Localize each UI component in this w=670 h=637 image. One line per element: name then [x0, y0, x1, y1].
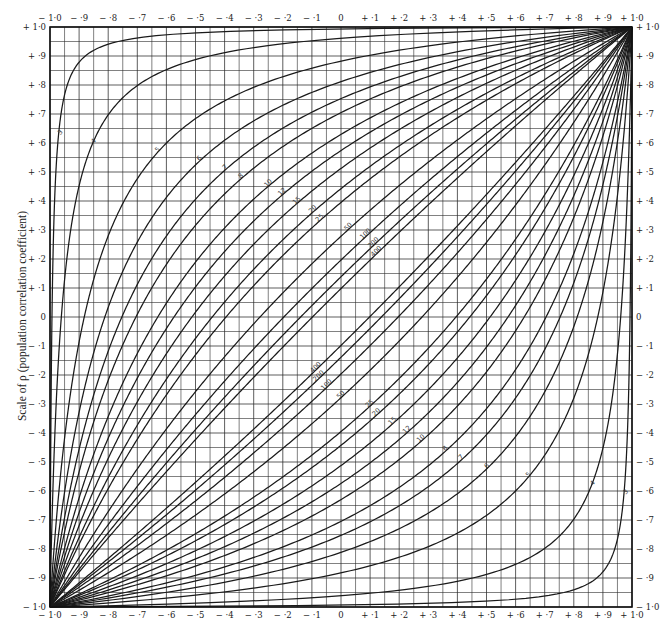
- y-tick-label-right: + ·8: [636, 80, 654, 90]
- y-tick-label-left: − ·2: [28, 370, 46, 380]
- y-tick-label-left: − ·7: [28, 515, 46, 525]
- y-tick-label-left: − ·3: [28, 399, 46, 409]
- x-tick-label: + ·2: [390, 13, 408, 23]
- x-tick-label: + ·9: [594, 610, 612, 620]
- x-tick-label: − ·8: [99, 610, 117, 620]
- x-tick-label: + ·2: [390, 610, 408, 620]
- curve-label: 20: [307, 203, 319, 215]
- x-tick-label: − ·5: [187, 610, 205, 620]
- x-tick-label: + ·9: [594, 13, 612, 23]
- correlation-confidence-chart: 3344556677881010121215152020252550501001…: [0, 0, 670, 637]
- x-tick-label: + ·3: [419, 13, 437, 23]
- x-tick-label: + ·7: [536, 610, 554, 620]
- x-tick-label: + ·3: [419, 610, 437, 620]
- x-tick-label: + ·8: [565, 13, 583, 23]
- curve-label: 12: [276, 186, 288, 198]
- curve-label: 50: [342, 221, 354, 233]
- y-tick-label-right: + ·1: [636, 283, 654, 293]
- y-tick-label-left: + ·1: [28, 283, 46, 293]
- y-tick-label-left: − ·4: [28, 428, 46, 438]
- curve-label: 50: [335, 389, 347, 401]
- curve-label: 3: [56, 128, 65, 137]
- y-tick-label-right: 0: [636, 312, 641, 322]
- x-tick-label: + ·4: [448, 610, 466, 620]
- x-tick-label: − ·9: [70, 610, 88, 620]
- x-tick-label: 0: [338, 610, 343, 620]
- x-axis-bottom-ticks: − 1·0− ·9− ·8− ·7− ·6− ·5− ·4− ·3− ·2− ·…: [38, 610, 643, 620]
- y-tick-label-left: + ·2: [28, 254, 46, 264]
- y-axis-right-ticks: + 1·0+ ·9+ ·8+ ·7+ ·6+ ·5+ ·4+ ·3+ ·2+ ·…: [636, 22, 659, 612]
- y-tick-label-left: + ·5: [28, 167, 46, 177]
- x-tick-label: − ·8: [99, 13, 117, 23]
- x-tick-label: − ·4: [216, 610, 234, 620]
- x-tick-label: + ·6: [507, 610, 525, 620]
- y-tick-label-right: + 1·0: [636, 22, 659, 32]
- x-tick-label: + ·1: [361, 610, 379, 620]
- x-tick-label: − ·2: [274, 13, 292, 23]
- curve-label: 10: [262, 177, 274, 189]
- x-tick-label: − ·1: [303, 13, 321, 23]
- y-tick-label-left: + 1·0: [23, 22, 46, 32]
- x-tick-label: − ·6: [157, 13, 175, 23]
- curve-label: 15: [387, 415, 399, 427]
- y-tick-label-right: − ·4: [636, 428, 654, 438]
- y-tick-label-right: − ·9: [636, 573, 654, 583]
- curve-label: 25: [314, 212, 326, 224]
- curve-labels: 3344556677881010121215152020252550501001…: [56, 128, 630, 496]
- y-tick-label-left: − 1·0: [23, 602, 46, 612]
- y-tick-label-left: + ·9: [28, 51, 46, 61]
- x-tick-label: + ·6: [507, 13, 525, 23]
- y-tick-label-left: − ·9: [28, 573, 46, 583]
- curve-label: 3: [621, 488, 630, 497]
- x-tick-label: − ·3: [245, 610, 263, 620]
- x-tick-label: − ·4: [216, 13, 234, 23]
- y-tick-label-right: − ·7: [636, 515, 654, 525]
- y-tick-label-right: + ·3: [636, 225, 654, 235]
- x-tick-label: − ·3: [245, 13, 263, 23]
- x-tick-label: − ·2: [274, 610, 292, 620]
- y-tick-label-right: + ·7: [636, 109, 654, 119]
- curve-label: 10: [415, 433, 427, 445]
- x-tick-label: + ·8: [565, 610, 583, 620]
- curve-label: 20: [371, 406, 383, 418]
- curve-label: 12: [401, 424, 413, 436]
- y-tick-label-left: + ·3: [28, 225, 46, 235]
- y-tick-label-left: − ·8: [28, 544, 46, 554]
- y-tick-label-right: + ·9: [636, 51, 654, 61]
- curve-label: 5: [524, 470, 533, 479]
- x-tick-label: − ·6: [157, 610, 175, 620]
- x-tick-label: − ·1: [303, 610, 321, 620]
- y-tick-label-right: − ·2: [636, 370, 654, 380]
- y-tick-label-right: − ·3: [636, 399, 654, 409]
- curve-label: 4: [588, 479, 597, 488]
- y-tick-label-right: − ·1: [636, 341, 654, 351]
- x-tick-label: 0: [338, 13, 343, 23]
- y-tick-label-left: 0: [41, 312, 46, 322]
- y-tick-label-right: + ·6: [636, 138, 654, 148]
- y-tick-label-right: + ·2: [636, 254, 654, 264]
- x-tick-label: − ·7: [128, 13, 146, 23]
- y-tick-label-right: + ·4: [636, 196, 654, 206]
- x-tick-label: + ·7: [536, 13, 554, 23]
- y-tick-label-right: − ·8: [636, 544, 654, 554]
- y-tick-label-left: − ·1: [28, 341, 46, 351]
- x-axis-top-ticks: − 1·0− ·9− ·8− ·7− ·6− ·5− ·4− ·3− ·2− ·…: [38, 13, 643, 23]
- y-tick-label-left: − ·5: [28, 457, 46, 467]
- curve-label: 15: [291, 195, 303, 207]
- y-tick-label-left: + ·4: [28, 196, 46, 206]
- y-tick-label-left: + ·8: [28, 80, 46, 90]
- y-tick-label-right: − ·6: [636, 486, 654, 496]
- y-tick-label-right: − 1·0: [636, 602, 659, 612]
- y-tick-label-left: + ·7: [28, 109, 46, 119]
- y-tick-label-left: + ·6: [28, 138, 46, 148]
- x-tick-label: − ·5: [187, 13, 205, 23]
- y-tick-label-left: − ·6: [28, 486, 46, 496]
- x-tick-label: + ·1: [361, 13, 379, 23]
- x-tick-label: − ·7: [128, 610, 146, 620]
- x-tick-label: + ·5: [478, 13, 496, 23]
- y-tick-label-right: + ·5: [636, 167, 654, 177]
- x-tick-label: + ·4: [448, 13, 466, 23]
- y-axis-label: Scale of ρ (population correlation coeff…: [16, 166, 28, 466]
- curve-label: 25: [364, 398, 376, 410]
- x-tick-label: − ·9: [70, 13, 88, 23]
